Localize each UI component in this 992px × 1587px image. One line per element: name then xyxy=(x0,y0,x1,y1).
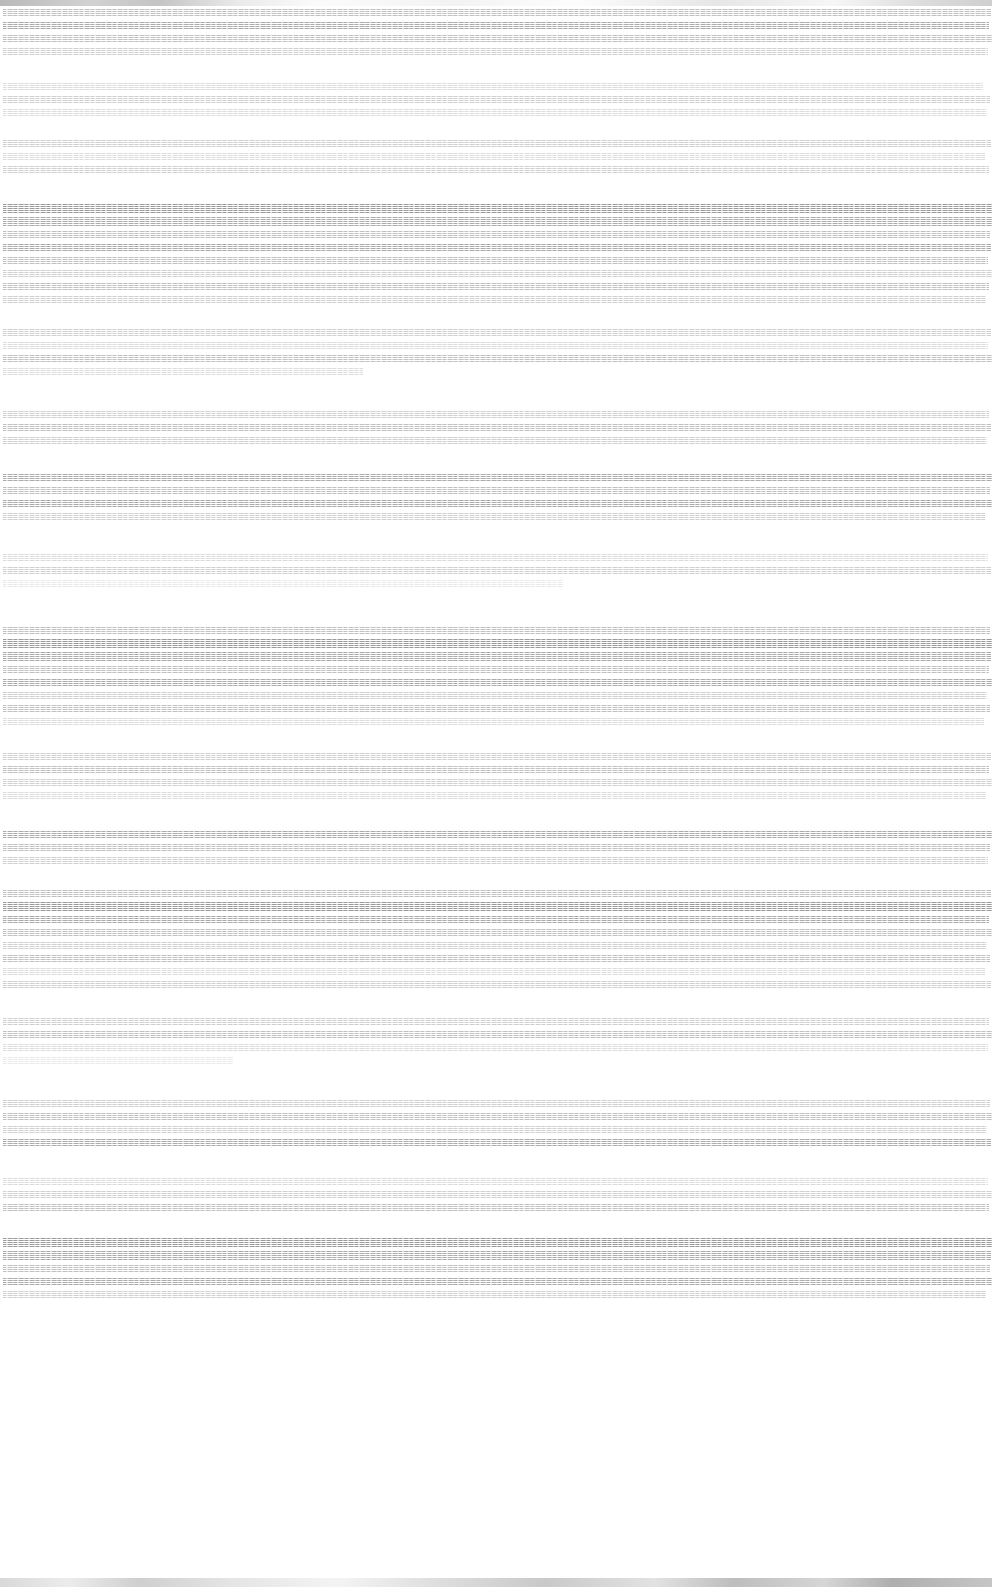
degraded-glyph-run xyxy=(3,929,992,936)
text-block xyxy=(0,6,992,58)
text-block xyxy=(0,408,992,447)
text-line xyxy=(0,163,992,176)
text-block xyxy=(0,1175,992,1214)
degraded-glyph-run xyxy=(3,9,991,16)
emphasis-text-line xyxy=(0,202,992,215)
degraded-glyph-run xyxy=(3,890,991,897)
text-line xyxy=(0,1097,992,1110)
text-line xyxy=(0,1028,992,1041)
text-block xyxy=(0,1097,992,1149)
degraded-glyph-run xyxy=(3,1191,992,1198)
degraded-glyph-run xyxy=(3,1251,991,1260)
degraded-glyph-run xyxy=(3,968,985,975)
text-line xyxy=(0,750,992,763)
text-line xyxy=(0,939,992,952)
degraded-glyph-run xyxy=(3,627,990,634)
degraded-glyph-run xyxy=(3,1178,988,1185)
paragraph-gap xyxy=(0,590,992,624)
paragraph-gap xyxy=(0,728,992,750)
degraded-glyph-run xyxy=(3,368,363,375)
paragraph-gap xyxy=(0,1067,992,1097)
emphasis-text-line xyxy=(0,215,992,228)
paragraph-gap xyxy=(0,991,992,1015)
text-line xyxy=(0,293,992,306)
text-line xyxy=(0,19,992,32)
text-block xyxy=(0,1236,992,1301)
text-line xyxy=(0,1188,992,1201)
degraded-glyph-run xyxy=(3,916,989,923)
text-line xyxy=(0,1041,992,1054)
text-line xyxy=(0,978,992,991)
text-line xyxy=(0,280,992,293)
text-line xyxy=(0,965,992,978)
text-line xyxy=(0,828,992,841)
degraded-glyph-run xyxy=(3,1291,986,1298)
text-line xyxy=(0,6,992,19)
degraded-glyph-run xyxy=(3,329,991,336)
text-line xyxy=(0,1275,992,1288)
degraded-glyph-run xyxy=(3,35,992,42)
degraded-glyph-run xyxy=(3,753,991,760)
degraded-glyph-run xyxy=(3,244,991,251)
degraded-glyph-run xyxy=(3,831,992,838)
degraded-glyph-run xyxy=(3,487,990,494)
degraded-glyph-run xyxy=(3,342,988,349)
degraded-glyph-run xyxy=(3,766,989,773)
degraded-glyph-run xyxy=(3,1204,989,1211)
degraded-glyph-run xyxy=(3,1265,990,1272)
text-line xyxy=(0,326,992,339)
degraded-glyph-run xyxy=(3,1238,992,1247)
degraded-glyph-run xyxy=(3,355,992,362)
text-line xyxy=(0,624,992,637)
text-line xyxy=(0,689,992,702)
text-line xyxy=(0,1136,992,1149)
text-line xyxy=(0,137,992,150)
text-block xyxy=(0,828,992,867)
paragraph-gap xyxy=(0,523,992,551)
emphasis-text-line xyxy=(0,1249,992,1262)
degraded-glyph-run xyxy=(3,424,991,431)
text-line xyxy=(0,1175,992,1188)
paragraph-gap xyxy=(0,802,992,828)
text-line xyxy=(0,1110,992,1123)
text-line xyxy=(0,763,992,776)
text-line xyxy=(0,1123,992,1136)
degraded-glyph-run xyxy=(3,500,992,507)
degraded-glyph-run xyxy=(3,1113,992,1120)
degraded-glyph-run xyxy=(3,857,988,864)
text-block xyxy=(0,624,992,728)
degraded-glyph-run xyxy=(3,981,991,988)
text-line xyxy=(0,32,992,45)
paragraph-gap xyxy=(0,1149,992,1175)
text-line xyxy=(0,952,992,965)
degraded-glyph-run xyxy=(3,1126,987,1133)
text-line xyxy=(0,241,992,254)
degraded-glyph-run xyxy=(3,83,983,90)
degraded-glyph-run xyxy=(3,567,991,574)
text-line xyxy=(0,339,992,352)
degraded-glyph-run xyxy=(3,666,989,673)
text-line xyxy=(0,80,992,93)
text-line xyxy=(0,45,992,58)
text-line xyxy=(0,408,992,421)
text-line xyxy=(0,150,992,163)
text-block xyxy=(0,137,992,176)
text-line xyxy=(0,663,992,676)
text-line xyxy=(0,1054,992,1067)
text-line xyxy=(0,106,992,119)
text-line xyxy=(0,841,992,854)
degraded-glyph-run xyxy=(3,437,987,444)
text-line xyxy=(0,789,992,802)
text-line xyxy=(0,887,992,900)
degraded-glyph-run xyxy=(3,166,989,173)
window-statusbar xyxy=(0,1578,992,1587)
degraded-glyph-run xyxy=(3,1018,989,1025)
degraded-glyph-run xyxy=(3,1057,233,1064)
document-text-area[interactable] xyxy=(0,6,992,1578)
text-line xyxy=(0,471,992,484)
emphasis-text-line xyxy=(0,650,992,663)
text-block xyxy=(0,1015,992,1067)
degraded-glyph-run xyxy=(3,204,992,213)
text-line xyxy=(0,1288,992,1301)
text-line xyxy=(0,577,992,590)
